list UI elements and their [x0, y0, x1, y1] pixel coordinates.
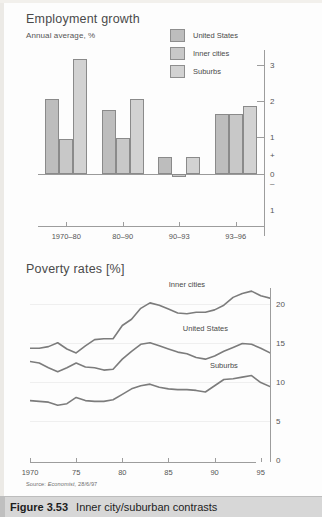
bar-plot-area — [38, 50, 264, 210]
bar-x-tick-label: 80–90 — [112, 232, 133, 241]
bar-y-axis: 321+0–1 — [264, 50, 322, 242]
bar-suburbs-1 — [130, 99, 144, 174]
line-y-tick-label: 10 — [276, 377, 285, 386]
series-label-inner-cities: Inner cities — [169, 280, 205, 289]
bar-y-tick-label: 3 — [270, 60, 274, 69]
bar-zero-baseline — [38, 174, 264, 175]
bar-inner-cities-2 — [172, 174, 186, 178]
bar-x-tick — [179, 222, 180, 226]
source-date: 28/6/97 — [78, 481, 97, 487]
bar-y-tick-label: 1 — [270, 133, 274, 142]
bar-x-tick-label: 93–96 — [225, 232, 246, 241]
source-prefix: Source: — [26, 481, 46, 487]
bar-united-states-3 — [215, 114, 229, 174]
line-y-tick-label: 5 — [276, 416, 280, 425]
line-x-axis-line — [30, 462, 256, 463]
bar-y-tick — [257, 101, 264, 102]
line-x-tick-label: 80 — [118, 468, 126, 477]
line-series-group — [30, 288, 270, 460]
bar-y-tick — [257, 174, 264, 175]
line-x-tick — [168, 458, 169, 462]
line-x-tick-label: 1970 — [22, 468, 39, 477]
legend-label: United States — [193, 31, 238, 40]
line-x-tick-label: 75 — [72, 468, 80, 477]
bar-suburbs-0 — [73, 59, 87, 174]
line-plot-area: Inner citiesUnited StatesSuburbs — [30, 288, 270, 460]
line-x-tick — [122, 458, 123, 462]
line-chart-title: Poverty rates [%] — [26, 262, 125, 276]
bar-y-tick-label: 1 — [270, 206, 274, 215]
bar-x-axis-line — [38, 226, 264, 227]
figure-caption-text: Inner city/suburban contrasts — [76, 501, 217, 513]
line-y-axis: 05101520 — [270, 288, 322, 468]
bar-united-states-2 — [158, 157, 172, 173]
legend-item-united-states: United States — [170, 28, 238, 43]
line-y-axis-line — [270, 288, 271, 462]
bar-inner-cities-1 — [116, 138, 130, 173]
line-x-tick-label: 85 — [164, 468, 172, 477]
source-publication: Economist, — [48, 481, 77, 487]
bar-y-tick — [257, 65, 264, 66]
bar-united-states-1 — [102, 110, 116, 174]
line-y-tick-label: 0 — [276, 456, 280, 465]
line-y-tick-label: 20 — [276, 299, 285, 308]
page-edge-top — [0, 0, 322, 3]
line-suburbs — [30, 376, 270, 406]
bar-suburbs-2 — [186, 157, 200, 173]
bar-inner-cities-3 — [229, 114, 243, 174]
bar-x-tick-label: 90–93 — [169, 232, 190, 241]
bar-y-axis-line — [264, 50, 265, 236]
source-note: Source: Economist, 28/6/97 — [26, 481, 97, 487]
bar-chart-subtitle: Annual average, % — [26, 31, 95, 40]
line-x-tick-label: 90 — [210, 468, 218, 477]
series-label-suburbs: Suburbs — [210, 361, 238, 370]
figure-number: Figure 3.53 — [10, 501, 68, 513]
line-x-tick — [215, 458, 216, 462]
bar-x-tick — [123, 222, 124, 226]
employment-growth-chart: Employment growth Annual average, % Unit… — [0, 4, 322, 252]
legend-swatch-icon — [170, 29, 185, 42]
bar-united-states-0 — [45, 99, 59, 174]
bar-x-axis: 1970–8080–9090–9393–96 — [38, 226, 264, 252]
bar-y-tick-label: – — [270, 178, 274, 187]
bar-x-tick-label: 1970–80 — [52, 232, 81, 241]
bar-x-tick — [66, 222, 67, 226]
line-x-tick — [30, 458, 31, 462]
figure-caption-bar: Figure 3.53 Inner city/suburban contrast… — [0, 496, 322, 517]
bar-y-tick-label: 0 — [270, 169, 274, 178]
bar-inner-cities-0 — [59, 139, 73, 174]
poverty-rates-chart: Poverty rates [%] Inner citiesUnited Sta… — [0, 258, 322, 486]
line-inner-cities — [30, 291, 270, 353]
line-y-tick-label: 15 — [276, 338, 285, 347]
bar-y-tick-label: 2 — [270, 96, 274, 105]
bar-x-tick — [236, 222, 237, 226]
line-x-tick — [76, 458, 77, 462]
line-x-tick-label: 95 — [257, 468, 265, 477]
bar-y-tick-label: + — [270, 151, 275, 160]
bar-y-tick — [257, 137, 264, 138]
series-label-united-states: United States — [183, 324, 228, 333]
line-x-tick — [261, 458, 262, 462]
bar-chart-title: Employment growth — [26, 12, 140, 26]
bar-suburbs-3 — [243, 106, 257, 173]
